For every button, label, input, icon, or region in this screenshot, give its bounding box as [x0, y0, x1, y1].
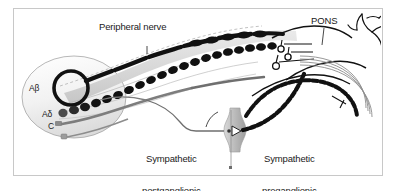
- label-pons: PONS: [311, 16, 337, 27]
- figure-root: Peripheral nerve PONS Aβ Aδ C Sympatheti…: [0, 0, 396, 191]
- label-sympathetic-preganglionic-line1: Sympathetic: [262, 154, 317, 165]
- label-sympathetic-postganglionic-line1: Sympathetic: [142, 154, 201, 165]
- postganglionic-leader-line: [206, 112, 218, 127]
- label-sympathetic-preganglionic: Sympathetic preganglionic: [262, 133, 317, 191]
- label-sympathetic-preganglionic-line2: preganglionic: [262, 186, 317, 191]
- label-sympathetic-postganglionic-line2: postganglionic: [142, 186, 201, 191]
- label-sympathetic-postganglionic: Sympathetic postganglionic: [142, 133, 201, 191]
- label-a-delta-fiber: Aδ: [42, 110, 52, 120]
- supraspinal-branching-terminals: [348, 12, 392, 74]
- label-c-fiber: C: [48, 122, 54, 132]
- label-a-beta-fiber: Aβ: [29, 84, 39, 94]
- sympathetic-chain-ganglion: [224, 108, 246, 169]
- label-peripheral-nerve: Peripheral nerve: [99, 22, 166, 33]
- pons-leader-line: [322, 28, 324, 45]
